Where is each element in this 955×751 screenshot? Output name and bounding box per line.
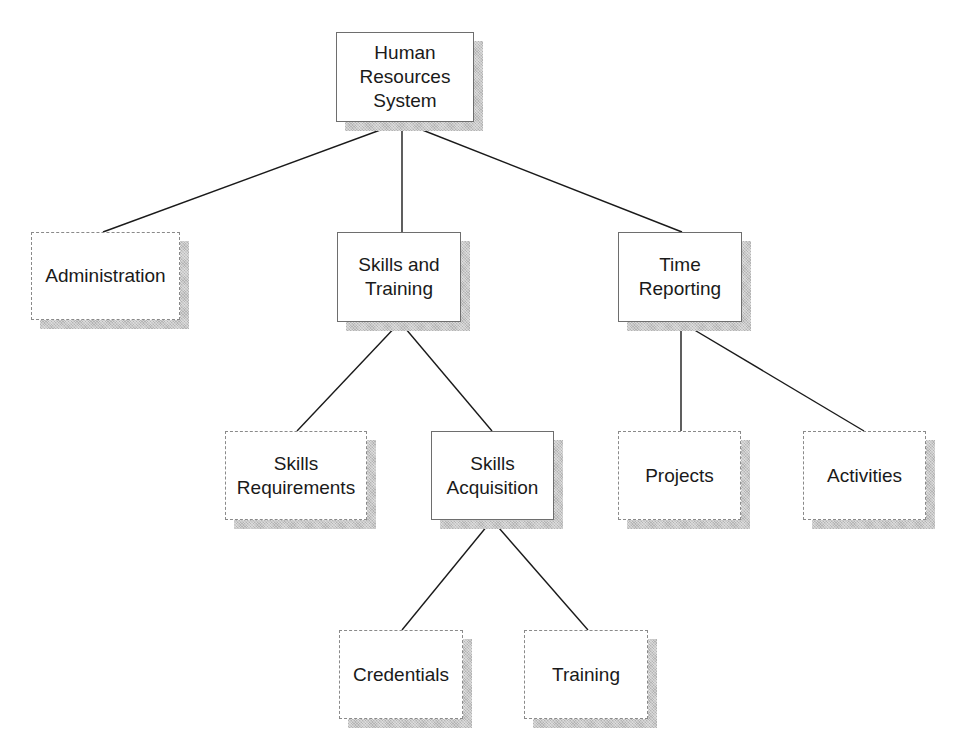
node-label: Administration	[41, 264, 169, 288]
edge-root-administration	[103, 122, 402, 232]
node-label: Time Reporting	[635, 253, 725, 301]
node-skills-acquisition[interactable]: Skills Acquisition	[431, 431, 554, 520]
edge-acquisition-credentials	[402, 520, 492, 630]
node-skills-and-training[interactable]: Skills and Training	[337, 232, 461, 322]
node-training[interactable]: Training	[524, 630, 648, 719]
edge-skills-training-acquisition	[400, 322, 492, 431]
edge-skills-training-requirements	[297, 322, 400, 431]
node-label: Human Resources System	[356, 41, 455, 113]
node-administration[interactable]: Administration	[31, 232, 180, 320]
node-skills-requirements[interactable]: Skills Requirements	[225, 431, 367, 520]
node-human-resources-system[interactable]: Human Resources System	[336, 32, 474, 122]
edge-acquisition-training	[492, 520, 588, 630]
node-label: Activities	[823, 464, 906, 488]
edge-time-reporting-activities	[681, 322, 864, 431]
node-activities[interactable]: Activities	[803, 431, 926, 520]
edge-root-time-reporting	[402, 122, 682, 232]
node-label: Credentials	[349, 663, 453, 687]
node-label: Skills Requirements	[233, 452, 359, 500]
node-label: Training	[548, 663, 624, 687]
node-time-reporting[interactable]: Time Reporting	[618, 232, 742, 322]
node-label: Projects	[641, 464, 718, 488]
node-label: Skills Acquisition	[443, 452, 543, 500]
node-projects[interactable]: Projects	[618, 431, 741, 520]
hierarchy-diagram: Human Resources System Administration Sk…	[0, 0, 955, 751]
node-label: Skills and Training	[354, 253, 443, 301]
node-credentials[interactable]: Credentials	[339, 630, 463, 719]
